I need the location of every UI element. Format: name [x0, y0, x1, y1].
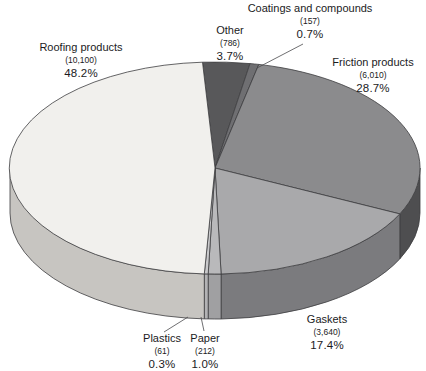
slice-value: (157): [248, 17, 373, 26]
slice-side-paper: [208, 274, 221, 319]
leader-plastics: [164, 317, 188, 332]
slice-label-paper: Paper (212) 1.0%: [190, 333, 219, 370]
slice-name: Plastics: [143, 333, 181, 344]
slice-percent: 0.7%: [248, 29, 373, 41]
pie-chart-figure: Roofing products (10,100) 48.2% Other (7…: [0, 0, 426, 371]
slice-value: (212): [190, 347, 219, 356]
slice-value: (786): [216, 39, 244, 48]
slice-percent: 28.7%: [332, 83, 413, 95]
slice-label-plastics: Plastics (61) 0.3%: [143, 333, 181, 370]
slice-label-other: Other (786) 3.7%: [216, 25, 244, 62]
slice-percent: 3.7%: [216, 51, 244, 63]
slice-percent: 17.4%: [307, 340, 347, 352]
slice-value: (61): [143, 347, 181, 356]
slice-percent: 48.2%: [39, 68, 122, 80]
slice-name: Paper: [190, 333, 219, 344]
slice-value: (10,100): [39, 56, 122, 65]
slice-label-gaskets: Gaskets (3,640) 17.4%: [307, 314, 347, 351]
slice-percent: 0.3%: [143, 359, 181, 371]
slice-side-plastics: [204, 274, 208, 319]
slice-name: Friction products: [332, 57, 413, 68]
slice-label-coatings-and-compounds: Coatings and compounds (157) 0.7%: [248, 3, 373, 40]
leader-coatings-and-compounds: [257, 44, 303, 68]
slice-name: Other: [216, 25, 244, 36]
slice-name: Gaskets: [307, 314, 347, 325]
slice-name: Roofing products: [39, 42, 122, 53]
slice-value: (3,640): [307, 328, 347, 337]
slice-percent: 1.0%: [190, 359, 219, 371]
slice-label-roofing-products: Roofing products (10,100) 48.2%: [39, 42, 122, 79]
slice-value: (6,010): [332, 71, 413, 80]
slice-label-friction-products: Friction products (6,010) 28.7%: [332, 57, 413, 94]
slice-name: Coatings and compounds: [248, 3, 373, 14]
